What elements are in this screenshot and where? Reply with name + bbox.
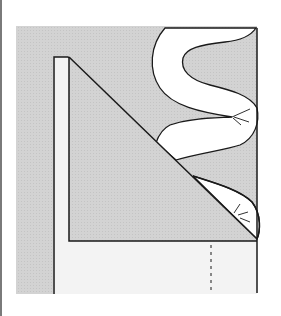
bottom-band	[69, 241, 257, 294]
mitered-corner-diagram	[0, 0, 281, 316]
hem-strip	[53, 57, 69, 294]
left-border-line	[0, 0, 2, 316]
